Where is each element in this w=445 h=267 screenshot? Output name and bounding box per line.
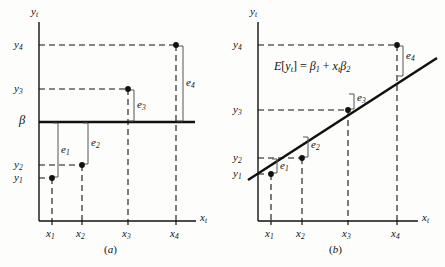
panel-a-ytick-y1: y1 bbox=[14, 172, 23, 184]
panel-b-xtick-x3: x3 bbox=[342, 228, 351, 240]
panel-a-xtick-x1: x1 bbox=[46, 228, 55, 240]
panel-b-equation: E[yt] = β1 + xtβ2 bbox=[274, 60, 350, 74]
panel-b-caption: (b) bbox=[329, 244, 342, 255]
panel-b-point-4 bbox=[394, 42, 400, 48]
panel-a-ytick-y3: y3 bbox=[14, 83, 23, 95]
panel-b-point-2 bbox=[299, 155, 305, 161]
panel-a-xtick-x4: x4 bbox=[170, 228, 179, 240]
panel-a-point-3 bbox=[125, 86, 131, 92]
panel-b-error-e3: e3 bbox=[357, 92, 366, 104]
panel-a-ytick-y2: y2 bbox=[14, 159, 23, 171]
panel-a-point-2 bbox=[79, 162, 85, 168]
panel-a-xtick-x3: x3 bbox=[122, 228, 131, 240]
panel-a-beta-label: β bbox=[19, 114, 25, 127]
panel-a-y-axis-label: yt bbox=[31, 6, 38, 18]
panel-b-error-e4: e4 bbox=[406, 50, 415, 62]
panel-b-error-e1: e1 bbox=[280, 160, 289, 172]
panel-a-bracket-e1 bbox=[53, 123, 58, 177]
panel-a-ytick-y4: y4 bbox=[14, 39, 23, 51]
panel-a-error-e2: e2 bbox=[91, 137, 100, 149]
panel-b-error-e2: e2 bbox=[311, 139, 320, 151]
panel-a-point-4 bbox=[173, 42, 179, 48]
panel-a-xtick-x2: x2 bbox=[76, 228, 85, 240]
panel-b-y-axis-label: yt bbox=[250, 6, 257, 18]
panel-b-xtick-x4: x4 bbox=[391, 228, 400, 240]
panel-a-bracket-e2 bbox=[83, 123, 88, 164]
panel-b-ytick-y4: y4 bbox=[233, 39, 242, 51]
panel-b-point-3 bbox=[345, 107, 351, 113]
panel-a-error-e3: e3 bbox=[137, 99, 146, 111]
panel-a-bracket-e4 bbox=[177, 46, 183, 121]
panel-b-ytick-y2: y2 bbox=[233, 152, 242, 164]
panel-a-error-e1: e1 bbox=[61, 144, 70, 156]
panel-b-ytick-y1: y1 bbox=[233, 168, 242, 180]
panel-a-error-e4: e4 bbox=[186, 77, 195, 89]
panel-a-point-1 bbox=[49, 175, 55, 181]
panel-b-ytick-y3: y3 bbox=[233, 104, 242, 116]
figure-container: yt xt y4 y3 y2 y1 β x1 x2 x3 x4 e1 e2 e3… bbox=[0, 0, 445, 267]
panel-b-xtick-x1: x1 bbox=[265, 228, 274, 240]
panel-a-bracket-e3 bbox=[129, 90, 134, 121]
figure-canvas bbox=[0, 0, 445, 267]
panel-b-bracket-e4 bbox=[398, 46, 403, 76]
panel-a-graphics bbox=[39, 22, 196, 225]
panel-a-x-axis-label: xt bbox=[200, 212, 207, 224]
panel-b-regression-line bbox=[248, 58, 437, 180]
panel-b-bracket-e2 bbox=[303, 137, 308, 157]
panel-a-caption: (a) bbox=[104, 244, 117, 255]
panel-b-xtick-x2: x2 bbox=[296, 228, 305, 240]
panel-b-bracket-e3 bbox=[349, 94, 354, 109]
panel-b-point-1 bbox=[268, 171, 274, 177]
panel-b-x-axis-label: xt bbox=[422, 212, 429, 224]
